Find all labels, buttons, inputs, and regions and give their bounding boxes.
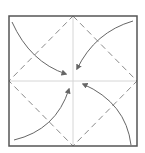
origami-diagram <box>0 0 145 153</box>
fold-arrow-top-right <box>77 21 133 69</box>
fold-arrow-bottom-left <box>14 89 69 140</box>
fold-arrow-top-left <box>12 22 66 74</box>
fold-arrow-bottom-right <box>83 84 131 145</box>
